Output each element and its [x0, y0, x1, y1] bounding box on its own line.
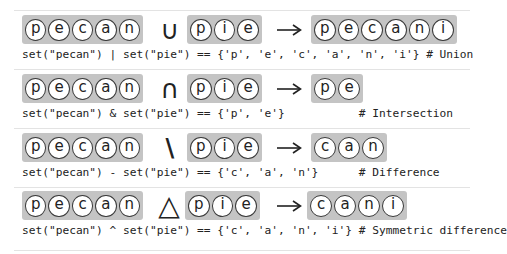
element-chip: e — [237, 19, 259, 41]
right-set-box: p i e — [187, 74, 262, 103]
element-chip: p — [314, 19, 336, 41]
element-chip: n — [358, 195, 380, 217]
left-set-box: p e c a n — [22, 191, 143, 220]
left-set-box: p e c a n — [22, 133, 143, 162]
left-set-box: p e c a n — [22, 74, 143, 103]
difference-symbol-icon: \ — [156, 133, 184, 162]
right-set-box: p i e — [185, 191, 260, 220]
element-chip: a — [95, 195, 116, 217]
element-chip: i — [212, 195, 234, 217]
row-intersection: p e c a n ∩ p i e p e set("pecan") & set… — [0, 74, 482, 132]
element-chip: a — [385, 19, 407, 41]
right-set-box: p i e — [187, 15, 262, 44]
row-union: p e c a n ∪ p i e p e c a n i set("pecan… — [0, 15, 482, 73]
element-chip: e — [338, 19, 360, 41]
right-arrow-icon — [274, 74, 304, 103]
element-chip: i — [214, 78, 236, 100]
separator — [14, 128, 470, 129]
element-chip: i — [432, 19, 454, 41]
element-chip: i — [214, 19, 236, 41]
code-symmetric-difference: set("pecan") ^ set("pie") == {'c', 'a', … — [22, 224, 507, 237]
element-chip: p — [314, 78, 336, 100]
intersection-symbol-icon: ∩ — [156, 74, 184, 103]
element-chip: n — [362, 137, 384, 159]
element-chip: a — [95, 19, 116, 41]
element-chip: a — [95, 78, 116, 100]
union-symbol-icon: ∪ — [156, 15, 184, 44]
code-difference: set("pecan") - set("pie") == {'c', 'a', … — [22, 166, 440, 179]
element-chip: c — [72, 195, 93, 217]
element-chip: n — [119, 78, 140, 100]
element-chip: c — [361, 19, 383, 41]
separator-top — [14, 10, 470, 11]
element-chip: a — [338, 137, 360, 159]
right-arrow-icon — [274, 15, 304, 44]
element-chip: a — [95, 137, 116, 159]
element-chip: i — [214, 137, 236, 159]
element-chip: n — [119, 19, 140, 41]
element-chip: c — [72, 78, 93, 100]
row-symmetric-difference: p e c a n △ p i e c a n i set("pecan") ^… — [0, 191, 482, 249]
element-chip: n — [119, 137, 140, 159]
element-chip: p — [188, 195, 210, 217]
separator — [14, 69, 470, 70]
right-set-box: p i e — [187, 133, 262, 162]
right-arrow-icon — [274, 191, 304, 220]
element-chip: i — [382, 195, 404, 217]
element-chip: c — [72, 137, 93, 159]
left-set-box: p e c a n — [22, 15, 143, 44]
code-intersection: set("pecan") & set("pie") == {'p', 'e'} … — [22, 107, 453, 120]
element-chip: e — [237, 137, 259, 159]
result-set-box: c a n — [311, 133, 387, 162]
element-chip: e — [48, 78, 69, 100]
separator-bottom — [14, 250, 470, 251]
element-chip: e — [237, 78, 259, 100]
element-chip: e — [338, 78, 360, 100]
element-chip: c — [72, 19, 93, 41]
result-set-box: p e c a n i — [311, 15, 457, 44]
element-chip: a — [334, 195, 356, 217]
element-chip: p — [25, 19, 46, 41]
element-chip: c — [310, 195, 332, 217]
right-arrow-icon — [274, 133, 304, 162]
element-chip: n — [119, 195, 140, 217]
element-chip: p — [190, 19, 212, 41]
element-chip: n — [409, 19, 431, 41]
element-chip: c — [314, 137, 336, 159]
result-set-box: c a n i — [307, 191, 407, 220]
separator — [14, 187, 470, 188]
element-chip: p — [190, 78, 212, 100]
element-chip: e — [48, 137, 69, 159]
element-chip: p — [25, 137, 46, 159]
element-chip: e — [235, 195, 257, 217]
element-chip: e — [48, 195, 69, 217]
element-chip: p — [190, 137, 212, 159]
result-set-box: p e — [311, 74, 363, 103]
element-chip: p — [25, 195, 46, 217]
symmetric-difference-symbol-icon: △ — [154, 191, 184, 220]
element-chip: p — [25, 78, 46, 100]
code-union: set("pecan") | set("pie") == {'p', 'e', … — [22, 48, 473, 61]
row-difference: p e c a n \ p i e c a n set("pecan") - s… — [0, 133, 482, 191]
element-chip: e — [48, 19, 69, 41]
